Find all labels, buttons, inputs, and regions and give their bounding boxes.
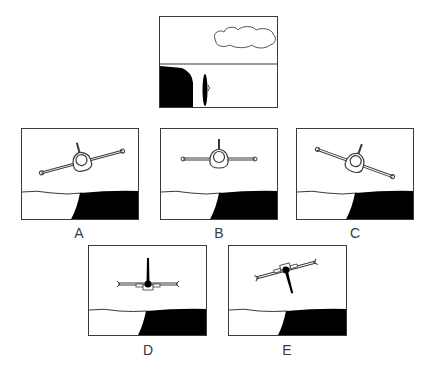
cliff bbox=[345, 191, 414, 220]
cliff bbox=[209, 191, 278, 220]
cliff bbox=[70, 191, 139, 220]
aircraft-front-icon bbox=[312, 130, 401, 186]
ground-line bbox=[89, 309, 147, 311]
ground-line bbox=[297, 191, 357, 194]
option-panel-a[interactable] bbox=[21, 128, 139, 220]
aircraft-front-icon bbox=[34, 131, 127, 182]
aircraft-rear-icon bbox=[117, 258, 179, 290]
cliff bbox=[277, 309, 347, 336]
cliff bbox=[160, 66, 193, 108]
option-panel-c[interactable] bbox=[296, 128, 414, 220]
aircraft-inverted-icon bbox=[254, 256, 324, 302]
option-panel-e[interactable] bbox=[228, 245, 347, 336]
option-label-c: C bbox=[345, 225, 365, 241]
aircraft-front-icon bbox=[181, 139, 257, 168]
cloud-icon bbox=[214, 27, 275, 48]
option-label-e: E bbox=[277, 342, 297, 358]
aircraft-edge-on-icon bbox=[203, 74, 210, 106]
option-panel-d[interactable] bbox=[88, 245, 207, 336]
option-label-a: A bbox=[69, 225, 89, 241]
reference-panel bbox=[159, 16, 278, 108]
ground-line bbox=[229, 309, 287, 311]
ground-line bbox=[22, 191, 82, 194]
cliff bbox=[137, 309, 207, 336]
ground-line bbox=[161, 191, 221, 194]
option-label-b: B bbox=[209, 225, 229, 241]
option-label-d: D bbox=[138, 342, 158, 358]
option-panel-b[interactable] bbox=[160, 128, 278, 220]
